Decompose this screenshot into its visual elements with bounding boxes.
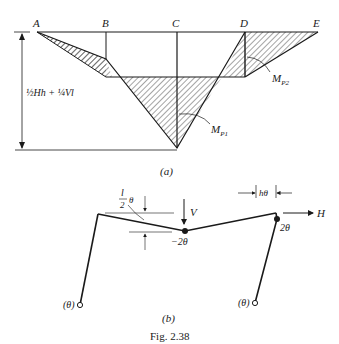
figure-caption: Fig. 2.38 — [150, 330, 190, 342]
part-b-label: (b) — [162, 312, 175, 325]
part-a-label: (a) — [160, 165, 173, 178]
rotation-mid-label: −2θ — [171, 236, 188, 247]
frame-beam — [98, 213, 276, 231]
mechanism-diagram-b: l 2 θ V −2θ H 2θ hθ (θ) (θ) (b) — [63, 185, 326, 325]
rotation-right-base-label: (θ) — [238, 297, 250, 309]
dimension-label: ½Hh + ¼Vl — [26, 87, 74, 98]
point-label-a: A — [32, 17, 40, 29]
point-label-e: E — [312, 17, 320, 29]
hinge-mid — [182, 228, 188, 234]
mp1-label: MP1 — [210, 123, 228, 138]
dimension-arrowhead-bottom — [19, 142, 25, 149]
deflection-label-theta: θ — [129, 195, 134, 205]
moment-diagram-a: A B C D E ½Hh + ¼Vl MP1 MP2 (a) — [14, 17, 320, 178]
load-h-label: H — [316, 207, 326, 219]
point-label-d: D — [239, 17, 248, 29]
load-v-label: V — [190, 206, 198, 218]
hatch-region-center-triangle — [121, 77, 222, 148]
dimension-arrowhead-top — [19, 33, 25, 40]
frame-right-column — [255, 213, 277, 303]
support-right — [252, 300, 257, 305]
deflection-label-den: 2 — [120, 200, 125, 210]
figure-2-38: A B C D E ½Hh + ¼Vl MP1 MP2 (a) — [0, 0, 339, 344]
mp2-label: MP2 — [271, 72, 289, 87]
rotation-left-base-label: (θ) — [63, 299, 75, 311]
sway-label: hθ — [259, 188, 269, 198]
support-left — [77, 302, 82, 307]
rotation-right-label: 2θ — [280, 222, 290, 233]
point-label-c: C — [172, 17, 180, 29]
deflection-leader — [128, 205, 144, 220]
point-label-b: B — [102, 17, 109, 29]
frame-left-column — [80, 214, 98, 305]
deflection-label-num: l — [121, 187, 124, 198]
